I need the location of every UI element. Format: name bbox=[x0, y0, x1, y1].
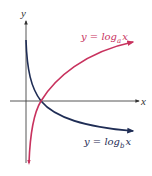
label-log-a: y = logax bbox=[80, 31, 128, 45]
label-log-b-suffix: x bbox=[126, 136, 132, 147]
x-axis-label: x bbox=[140, 95, 146, 107]
label-log-b: y = logbx bbox=[83, 136, 132, 150]
label-log-a-suffix: x bbox=[122, 31, 128, 42]
curve-log-a-arrowhead bbox=[27, 160, 30, 165]
y-axis-label: y bbox=[20, 7, 26, 19]
label-log-a-prefix: y = log bbox=[80, 31, 117, 42]
label-log-a-sub: a bbox=[117, 37, 121, 45]
label-log-b-sub: b bbox=[120, 142, 125, 150]
label-log-b-prefix: y = log bbox=[83, 136, 120, 147]
curve-log-b bbox=[26, 40, 133, 131]
logarithm-graph: x y y = logax y = logbx bbox=[0, 0, 152, 176]
